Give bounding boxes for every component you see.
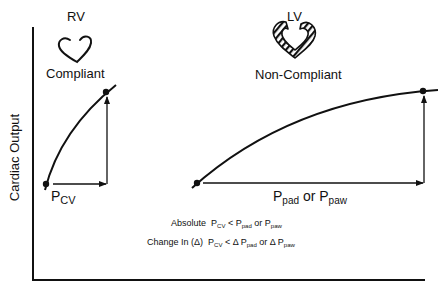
rv-curve: [45, 85, 116, 190]
lv-end-point: [420, 88, 426, 94]
change-lhs-sub: CV: [214, 242, 222, 248]
rv-curve-group: [43, 85, 116, 190]
absolute-operator: <: [228, 218, 233, 228]
change-rhs1-sub: pad: [247, 242, 257, 248]
rv-title: RV: [67, 9, 85, 24]
rv-pressure-subscript: CV: [60, 194, 75, 206]
lv-pressure-label: Ppad or Ppaw: [273, 188, 347, 204]
lv-pressure-base-1: P: [273, 188, 282, 204]
lv-curve: [192, 90, 438, 188]
hatched-thick-heart-icon: [273, 22, 315, 58]
change-rhs1: Δ P: [233, 237, 247, 247]
change-annotation: Change In (Δ) PCV < Δ Ppad or Δ Ppaw: [147, 237, 295, 247]
change-operator: <: [225, 237, 230, 247]
change-rhs2-sub: paw: [284, 242, 295, 248]
rv-end-point: [103, 89, 109, 95]
lv-pressure-subscript-2: paw: [329, 195, 347, 206]
lv-pressure-subscript-1: pad: [282, 195, 299, 206]
outline-heart-icon: [59, 36, 91, 62]
absolute-or: or: [254, 218, 262, 228]
lv-start-point: [194, 180, 200, 186]
absolute-lhs-sub: CV: [217, 223, 225, 229]
absolute-prefix: Absolute: [171, 218, 206, 228]
change-rhs2: Δ P: [270, 237, 284, 247]
rv-pressure-label: PCV: [51, 188, 76, 204]
lv-pressure-connector: or: [303, 188, 315, 204]
absolute-rhs1: P: [236, 218, 242, 228]
lv-curve-group: [192, 88, 438, 188]
rv-status-label: Compliant: [46, 66, 105, 81]
y-axis-label: Cardiac Output: [7, 113, 22, 203]
absolute-rhs2-sub: paw: [271, 223, 282, 229]
absolute-annotation: Absolute PCV < Ppad or Ppaw: [171, 218, 282, 228]
lv-status-label: Non-Compliant: [255, 67, 342, 82]
absolute-rhs1-sub: pad: [242, 223, 252, 229]
change-or: or: [259, 237, 267, 247]
lv-title: LV: [287, 9, 302, 24]
lv-pressure-base-2: P: [319, 188, 328, 204]
absolute-rhs2: P: [265, 218, 271, 228]
change-prefix: Change In (Δ): [147, 237, 203, 247]
rv-pressure-base: P: [51, 188, 60, 204]
rv-start-point: [43, 181, 49, 187]
